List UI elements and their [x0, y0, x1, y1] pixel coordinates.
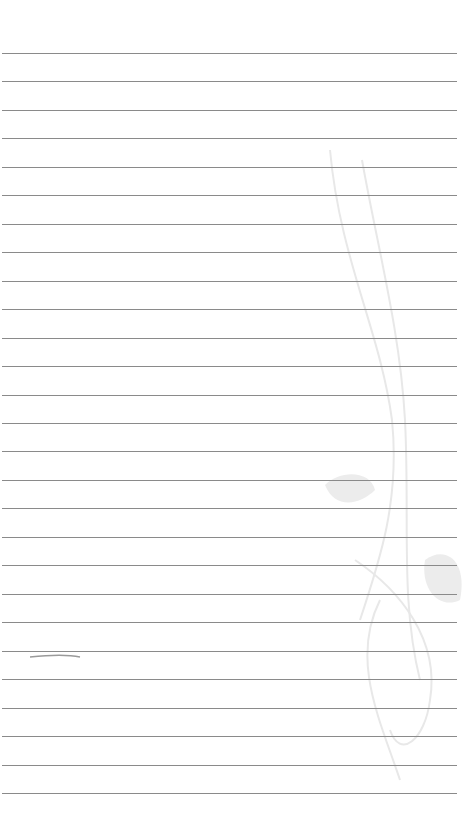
rule-line — [2, 309, 457, 310]
rule-line — [2, 366, 457, 367]
rule-line — [2, 167, 457, 168]
rule-line — [2, 793, 457, 794]
rule-line — [2, 224, 457, 225]
lined-paper — [0, 0, 468, 832]
rule-line — [2, 679, 457, 680]
rule-line — [2, 53, 457, 54]
rule-line — [2, 480, 457, 481]
rule-line — [2, 395, 457, 396]
rule-line — [2, 537, 457, 538]
rule-line — [2, 110, 457, 111]
rule-line — [2, 338, 457, 339]
rule-line — [2, 252, 457, 253]
rule-line — [2, 565, 457, 566]
rule-line — [2, 508, 457, 509]
rule-line — [2, 423, 457, 424]
rule-line — [2, 736, 457, 737]
rule-line — [2, 138, 457, 139]
rule-line — [2, 281, 457, 282]
rule-line — [2, 81, 457, 82]
rule-line — [2, 708, 457, 709]
rule-line — [2, 622, 457, 623]
rule-line — [2, 451, 457, 452]
rule-line — [2, 765, 457, 766]
rule-line — [2, 651, 457, 652]
rule-line — [2, 195, 457, 196]
rule-line — [2, 594, 457, 595]
